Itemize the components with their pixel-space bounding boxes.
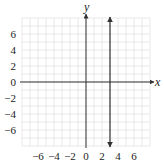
y-tick-label: −6 [4, 124, 16, 136]
tick-labels: −6−4−202466420−2−4−6 [4, 28, 137, 162]
x-axis-label: x [154, 75, 161, 89]
y-tick-label: −2 [4, 92, 16, 104]
y-axis-label: y [83, 0, 90, 14]
y-tick-label: 4 [11, 44, 17, 56]
y-tick-label: 6 [11, 28, 17, 40]
x-tick-label: −4 [48, 150, 60, 162]
x-tick-label: 0 [83, 150, 89, 162]
x-tick-label: 2 [99, 150, 105, 162]
x-tick-label: −6 [32, 150, 44, 162]
x-tick-label: 4 [115, 150, 121, 162]
x-tick-label: 6 [131, 150, 137, 162]
y-tick-label: 0 [11, 76, 17, 88]
coordinate-plane: −6−4−202466420−2−4−6 x y [0, 0, 164, 163]
y-tick-label: −4 [4, 108, 16, 120]
x-tick-label: −2 [64, 150, 76, 162]
y-tick-label: 2 [11, 60, 17, 72]
